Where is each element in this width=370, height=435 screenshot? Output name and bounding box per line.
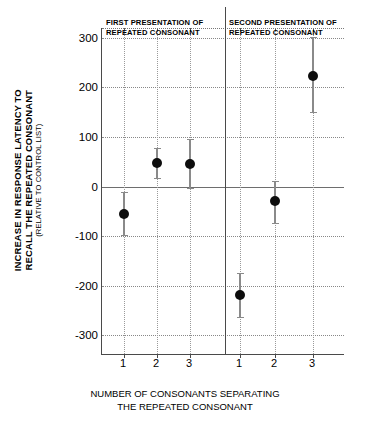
x-axis-tick-label: 1 — [227, 357, 251, 369]
y-axis-title: INCREASE IN RESPONSE LATENCY TO RECALL T… — [2, 0, 54, 360]
data-point — [152, 158, 162, 168]
x-axis-title-line2: THE REPEATED CONSONANT — [0, 401, 370, 414]
error-bar-cap — [187, 139, 194, 140]
y-axis-tick-label: -300 — [58, 329, 98, 341]
error-bar-cap — [310, 37, 317, 38]
y-axis-tick-label: 200 — [58, 81, 98, 93]
y-axis-tick-label: 100 — [58, 131, 98, 143]
y-axis-title-line1: INCREASE IN RESPONSE LATENCY TO — [12, 89, 23, 271]
error-bar-cap — [154, 148, 161, 149]
panel-divider — [225, 7, 226, 354]
gridline-horizontal — [102, 137, 344, 138]
data-point — [235, 290, 245, 300]
gridline-vertical — [190, 28, 191, 354]
data-point — [270, 196, 280, 206]
gridline-horizontal — [102, 87, 344, 88]
gridline-horizontal — [102, 38, 344, 39]
error-bar-cap — [154, 178, 161, 179]
error-bar-cap — [310, 112, 317, 113]
gridline-vertical — [124, 28, 125, 354]
y-axis-tick-label: 0 — [58, 181, 98, 193]
error-bar-cap — [237, 273, 244, 274]
y-axis-tick-label: 300 — [58, 32, 98, 44]
data-point — [119, 209, 129, 219]
zero-reference-line — [102, 187, 344, 188]
data-point — [185, 159, 195, 169]
panel-caption-second: SECOND PRESENTATION OF REPEATED CONSONAN… — [229, 18, 337, 37]
x-axis-tick-label: 1 — [111, 357, 135, 369]
x-axis-title: NUMBER OF CONSONANTS SEPARATING THE REPE… — [0, 388, 370, 414]
gridline-horizontal — [102, 335, 344, 336]
error-bar-cap — [121, 192, 128, 193]
plot-area — [101, 28, 344, 355]
y-axis-tick-label: -200 — [58, 280, 98, 292]
y-axis-title-sublabel: (RELATIVE TO CONTROL LIST) — [35, 89, 44, 271]
error-bar-cap — [272, 181, 279, 182]
x-axis-tick-labels: 123123 — [0, 357, 370, 375]
gridline-horizontal — [102, 286, 344, 287]
error-bar-cap — [272, 223, 279, 224]
gridline-horizontal — [102, 236, 344, 237]
x-axis-tick-label: 2 — [144, 357, 168, 369]
error-bar-cap — [121, 235, 128, 236]
y-axis-tick-label: -100 — [58, 230, 98, 242]
x-axis-tick-label: 2 — [262, 357, 286, 369]
x-axis-title-line1: NUMBER OF CONSONANTS SEPARATING — [0, 388, 370, 401]
figure-container: INCREASE IN RESPONSE LATENCY TO RECALL T… — [0, 0, 370, 435]
error-bar-cap — [237, 317, 244, 318]
panel-caption-first: FIRST PRESENTATION OF REPEATED CONSONANT — [106, 18, 203, 37]
error-bar-cap — [187, 188, 194, 189]
x-axis-tick-label: 3 — [177, 357, 201, 369]
gridline-vertical — [157, 28, 158, 354]
x-axis-tick-label: 3 — [300, 357, 324, 369]
y-axis-title-line2: RECALL THE REPEATED CONSONANT — [23, 89, 34, 271]
data-point — [308, 71, 318, 81]
